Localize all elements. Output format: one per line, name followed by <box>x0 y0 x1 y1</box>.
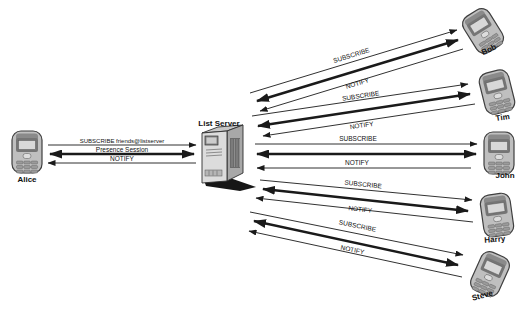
alice-label: Alice <box>17 175 37 184</box>
label-notify-alice: NOTIFY <box>110 155 134 162</box>
label-session-alice: Presence Session <box>96 146 149 153</box>
server-label: List Server <box>198 119 239 128</box>
label-notify-tim: NOTIFY <box>349 120 374 131</box>
label-notify-bob: NOTIFY <box>345 76 370 90</box>
label-notify-john: NOTIFY <box>345 159 369 166</box>
phone-icon-harry <box>479 192 515 238</box>
label-subscribe-harry: SUBSCRIBE <box>344 179 383 190</box>
phone-icon-tim <box>477 68 516 116</box>
tim-label: Tim <box>495 112 510 123</box>
link-group-steve: SUBSCRIBE NOTIFY <box>249 212 463 277</box>
link-group-alice: SUBSCRIBE friends@listserver Presence Se… <box>48 138 196 164</box>
link-group-harry: SUBSCRIBE NOTIFY <box>256 179 473 222</box>
arrow-notify-steve <box>249 231 462 277</box>
label-subscribe-alice: SUBSCRIBE friends@listserver <box>80 138 164 144</box>
link-group-john: SUBSCRIBE NOTIFY <box>255 135 477 168</box>
phone-icon-alice <box>12 131 42 173</box>
label-subscribe-bob: SUBSCRIBE <box>332 46 371 64</box>
label-subscribe-john: SUBSCRIBE <box>339 135 377 142</box>
john-label: John <box>495 171 514 180</box>
diagram-canvas: List Server Alice Bob Tim John Harry Ste… <box>0 0 521 317</box>
presence-list-diagram: List Server Alice Bob Tim John Harry Ste… <box>0 0 521 317</box>
label-notify-harry: NOTIFY <box>348 204 373 214</box>
harry-label: Harry <box>484 234 506 244</box>
list-server-icon <box>202 125 256 191</box>
phone-icon-john <box>484 132 514 174</box>
